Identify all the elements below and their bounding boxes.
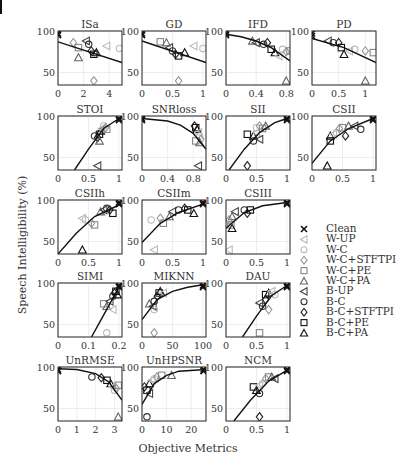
x-tick-label: 1 xyxy=(200,88,206,99)
x-tick-label: 0 xyxy=(223,340,229,351)
y-tick-label: 50 xyxy=(211,152,223,163)
y-tick-label: 50 xyxy=(127,236,139,247)
y-tick-label: 50 xyxy=(127,319,139,330)
x-tick-label: 0.5 xyxy=(331,88,346,99)
subplot-dau: DAU00.5150100 xyxy=(205,270,290,351)
x-tick-label: 0 xyxy=(223,173,229,184)
x-tick-label: 0 xyxy=(309,88,315,99)
axes-frame xyxy=(142,31,206,85)
y-tick-label: 100 xyxy=(291,26,309,37)
x-tick-label: 0 xyxy=(139,340,145,351)
subplot-title: NCM xyxy=(244,354,272,366)
x-tick-label: 1 xyxy=(200,257,206,268)
x-tick-label: 0.5 xyxy=(335,173,350,184)
y-axis-label: Speech Intelligibility (%) xyxy=(16,176,29,315)
subplot-isa: ISa02450100 xyxy=(37,18,123,99)
subplot-csiim: CSIIm00.5150100 xyxy=(121,187,206,268)
y-tick-label: 100 xyxy=(121,111,139,122)
y-tick-label: 100 xyxy=(205,362,223,373)
x-tick-label: 0.4 xyxy=(249,88,264,99)
data-points xyxy=(55,366,122,420)
x-tick-label: 0.5 xyxy=(165,88,180,99)
subplot-pd: PD00.5150100 xyxy=(291,18,377,99)
subplot-unrmse: UnRMSE012350100 xyxy=(37,354,122,435)
y-tick-label: 50 xyxy=(297,152,309,163)
x-tick-label: 0.8 xyxy=(186,173,201,184)
x-tick-label: 0 xyxy=(139,88,145,99)
subplot-title: UnHPSNR xyxy=(146,354,203,366)
x-tick-label: 0.4 xyxy=(160,173,175,184)
x-tick-label: 0 xyxy=(139,173,145,184)
x-tick-label: 1 xyxy=(362,88,368,99)
y-tick-label: 100 xyxy=(37,278,55,289)
y-tick-label: 100 xyxy=(291,111,309,122)
subplot-title: GD xyxy=(166,18,183,30)
y-tick-label: 50 xyxy=(127,152,139,163)
subplot-unhpsnr: UnHPSNR0102050100 xyxy=(121,354,207,435)
x-tick-label: 2 xyxy=(81,88,87,99)
x-tick-label: 0.8 xyxy=(279,88,294,99)
subplot-title: SII xyxy=(250,103,266,115)
x-tick-label: 0.5 xyxy=(165,257,180,268)
x-tick-label: 4 xyxy=(106,88,112,99)
subplot-csiii: CSIII00.5150100 xyxy=(205,187,290,268)
x-tick-label: 2 xyxy=(93,424,99,435)
y-tick-label: 50 xyxy=(211,403,223,414)
x-tick-label: 0.5 xyxy=(249,340,264,351)
subplot-title: ISa xyxy=(81,18,99,30)
legend: CleanW-UPW-CW-C+STFTPIW-C+PEW-C+PAB-UPB-… xyxy=(300,222,396,338)
fit-curve xyxy=(229,119,287,171)
y-tick-label: 100 xyxy=(37,111,55,122)
y-tick-label: 50 xyxy=(211,67,223,78)
data-points xyxy=(141,366,206,420)
y-tick-label: 50 xyxy=(127,403,139,414)
y-tick-label: 100 xyxy=(121,278,139,289)
y-tick-label: 50 xyxy=(43,319,55,330)
data-points xyxy=(91,115,122,169)
x-tick-label: 0 xyxy=(139,257,145,268)
y-tick-label: 100 xyxy=(205,111,223,122)
subplot-miknn: MIKNN05010050100 xyxy=(121,270,212,351)
subplot-ifd: IFD00.40.850100 xyxy=(205,18,294,99)
y-tick-label: 50 xyxy=(211,319,223,330)
x-axis-label: Objective Metrics xyxy=(138,442,237,455)
x-tick-label: 1 xyxy=(284,173,290,184)
y-tick-label: 100 xyxy=(121,195,139,206)
x-tick-label: 1 xyxy=(370,173,376,184)
x-tick-label: 0.1 xyxy=(81,340,96,351)
y-tick-label: 50 xyxy=(43,67,55,78)
x-tick-label: 0 xyxy=(309,173,315,184)
x-tick-label: 100 xyxy=(194,340,212,351)
fit-curve xyxy=(142,41,206,63)
y-tick-label: 50 xyxy=(43,236,55,247)
axes-frame xyxy=(58,31,122,85)
data-points xyxy=(139,115,204,169)
subplot-ncm: NCM00.5150100 xyxy=(205,354,290,435)
subplot-stoi: STOI00.5150100 xyxy=(37,103,122,184)
x-tick-label: 1 xyxy=(284,424,290,435)
x-tick-label: 1 xyxy=(74,424,80,435)
x-tick-label: 0 xyxy=(55,340,61,351)
x-tick-label: 0.5 xyxy=(249,257,264,268)
x-tick-label: 1 xyxy=(116,173,122,184)
x-tick-label: 0 xyxy=(223,88,229,99)
subplot-csiih: CSIIh00.5150100 xyxy=(37,187,122,268)
x-tick-label: 0 xyxy=(55,88,61,99)
subplot-simi: SIMI00.10.250100 xyxy=(37,270,127,351)
x-tick-label: 1 xyxy=(116,257,122,268)
y-tick-label: 100 xyxy=(205,26,223,37)
x-tick-label: 0.5 xyxy=(81,257,96,268)
subplot-title: CSIII xyxy=(244,187,272,199)
x-tick-label: 1 xyxy=(284,257,290,268)
subplot-snrloss: SNRloss00.40.850100 xyxy=(121,103,206,184)
figure: ISa02450100GD00.5150100IFD00.40.850100PD… xyxy=(0,0,403,468)
data-points xyxy=(55,30,123,85)
y-tick-label: 100 xyxy=(37,26,55,37)
x-tick-label: 0 xyxy=(55,173,61,184)
x-tick-label: 20 xyxy=(185,424,197,435)
subplot-title: PD xyxy=(336,18,351,30)
data-points xyxy=(79,199,122,253)
fit-curve xyxy=(243,286,288,338)
legend-item-b-c-pa: B-C+PA xyxy=(300,326,368,338)
y-tick-label: 100 xyxy=(121,362,139,373)
